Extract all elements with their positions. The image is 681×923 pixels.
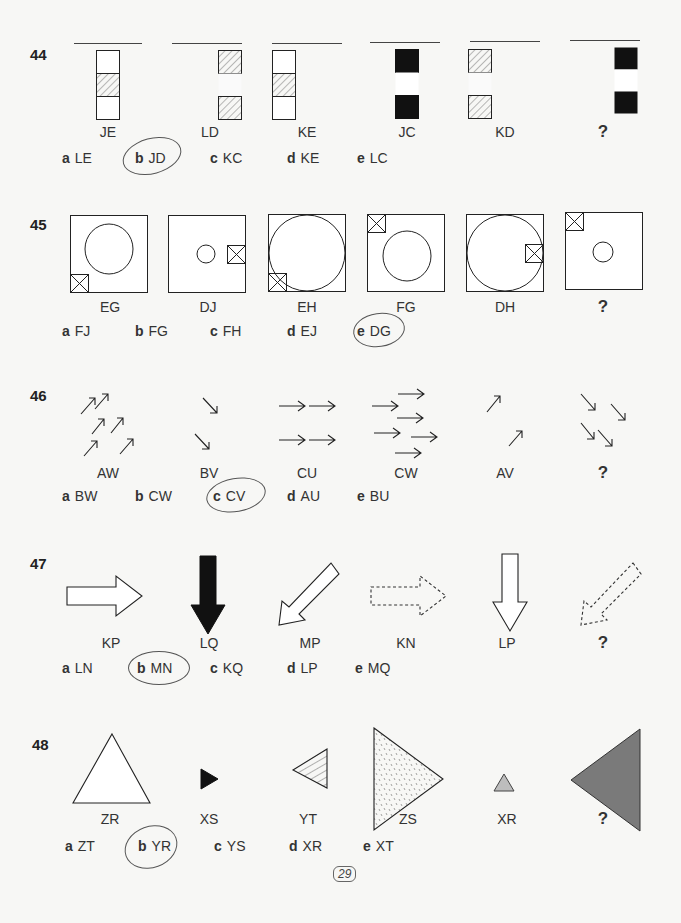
figure-unknown xyxy=(580,562,642,626)
figure-label: BV xyxy=(200,465,219,481)
answer-line xyxy=(172,43,242,44)
figure-label: XR xyxy=(497,811,516,827)
figure-mp xyxy=(278,562,340,626)
figure-dj xyxy=(168,215,246,293)
unknown-figure-label: ? xyxy=(598,122,608,142)
option-b[interactable]: bCW xyxy=(135,488,172,504)
figure-unknown xyxy=(565,212,643,290)
figure-label: ZR xyxy=(101,811,120,827)
figure-kd xyxy=(468,49,492,119)
figure-label: DH xyxy=(495,299,515,315)
answer-line xyxy=(74,43,142,44)
figure-label: KD xyxy=(495,124,514,140)
figure-label: JE xyxy=(100,124,116,140)
unknown-figure-label: ? xyxy=(598,809,608,829)
question-number: 45 xyxy=(30,216,47,233)
option-c[interactable]: cKC xyxy=(210,150,242,166)
option-d[interactable]: dEJ xyxy=(287,323,317,339)
option-c[interactable]: cYS xyxy=(214,838,245,854)
figure-label: FG xyxy=(396,299,415,315)
option-d[interactable]: dAU xyxy=(287,488,320,504)
figure-label: KP xyxy=(102,635,121,651)
option-e[interactable]: eLC xyxy=(357,150,388,166)
option-a[interactable]: aLE xyxy=(62,150,92,166)
option-d[interactable]: dXR xyxy=(289,838,322,854)
figure-label: CU xyxy=(297,465,317,481)
option-e[interactable]: eMQ xyxy=(355,660,390,676)
question-number: 48 xyxy=(32,736,49,753)
figure-jc xyxy=(395,49,419,119)
figure-label: XS xyxy=(200,811,219,827)
figure-xr xyxy=(493,773,517,793)
figure-label: DJ xyxy=(199,299,216,315)
page-number: 29 xyxy=(333,866,356,882)
option-a[interactable]: aBW xyxy=(62,488,97,504)
figure-je xyxy=(96,50,120,120)
figure-label: AV xyxy=(496,465,514,481)
option-c[interactable]: cCV xyxy=(213,488,245,504)
figure-lp xyxy=(492,553,528,633)
figure-bv xyxy=(190,395,230,465)
figure-label: ZS xyxy=(399,811,417,827)
question-number: 44 xyxy=(30,46,47,63)
figure-label: LQ xyxy=(200,635,219,651)
option-b[interactable]: bYR xyxy=(138,838,171,854)
figure-cu xyxy=(275,400,345,450)
figure-kp xyxy=(66,574,146,618)
option-b[interactable]: bMN xyxy=(137,660,172,676)
figure-zr xyxy=(72,733,152,805)
figure-label: EG xyxy=(100,299,120,315)
option-a[interactable]: aFJ xyxy=(62,323,90,339)
figure-ke xyxy=(272,50,296,120)
question-number: 46 xyxy=(30,387,47,404)
question-number: 47 xyxy=(30,555,47,572)
figure-dh xyxy=(466,214,544,292)
unknown-figure-label: ? xyxy=(598,463,608,483)
option-c[interactable]: cFH xyxy=(210,323,241,339)
unknown-figure-label: ? xyxy=(598,297,608,317)
answer-line xyxy=(272,43,342,44)
figure-label: YT xyxy=(299,811,317,827)
figure-label: CW xyxy=(394,465,417,481)
option-e[interactable]: eBU xyxy=(357,488,389,504)
figure-label: AW xyxy=(97,465,119,481)
figure-ld xyxy=(218,50,242,120)
unknown-figure-label: ? xyxy=(598,633,608,653)
figure-label: JC xyxy=(398,124,415,140)
figure-eg xyxy=(70,215,148,293)
answer-line xyxy=(370,42,440,43)
option-d[interactable]: dLP xyxy=(287,660,318,676)
option-b[interactable]: bJD xyxy=(135,150,166,166)
figure-xs xyxy=(200,768,220,790)
option-a[interactable]: aLN xyxy=(62,660,93,676)
option-d[interactable]: dKE xyxy=(287,150,319,166)
figure-yt xyxy=(292,748,330,790)
figure-eh xyxy=(268,214,346,292)
figure-label: MP xyxy=(300,635,321,651)
option-b[interactable]: bFG xyxy=(135,323,168,339)
figure-label: LP xyxy=(498,635,515,651)
option-a[interactable]: aZT xyxy=(65,838,95,854)
option-e[interactable]: eXT xyxy=(363,838,394,854)
figure-lq xyxy=(190,555,226,635)
figure-kn xyxy=(370,574,450,618)
figure-label: KN xyxy=(396,635,415,651)
figure-av xyxy=(475,390,535,460)
figure-label: LD xyxy=(201,124,219,140)
figure-fg xyxy=(367,214,445,292)
answer-line xyxy=(470,41,540,42)
option-e[interactable]: eDG xyxy=(357,323,391,339)
figure-unknown xyxy=(575,390,645,460)
figure-cw xyxy=(370,390,440,470)
figure-unknown xyxy=(614,47,638,115)
answer-line xyxy=(570,40,640,41)
option-c[interactable]: cKQ xyxy=(210,660,243,676)
figure-label: KE xyxy=(298,124,317,140)
figure-aw xyxy=(75,390,145,465)
figure-label: EH xyxy=(297,299,316,315)
